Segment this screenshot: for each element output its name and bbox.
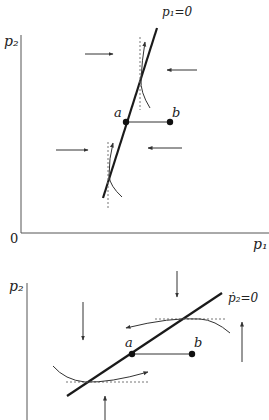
origin-label: 0 [10,231,18,246]
bottom-y-axis-label: p₂ [9,278,24,294]
top-point-a-label: a [114,105,122,120]
top-y-axis-label: p₂ [4,33,19,49]
upper-trajectory [126,319,230,333]
top-diagram: p₂ 0 p₁ p₁=0 a b [4,5,269,252]
bottom-point-b [189,351,195,357]
p1-zero-label: p₁=0 [162,5,193,19]
bottom-diagram: p₂ ṗ₂=0 a b [9,271,259,420]
bottom-point-a [129,351,135,357]
top-x-axis-label: p₁ [253,236,268,252]
phase-diagrams: p₂ 0 p₁ p₁=0 a b p₂ ṗ₂=0 [0,0,269,420]
bottom-point-b-label: b [194,335,202,350]
bottom-point-a-label: a [125,335,133,350]
top-point-b-label: b [172,105,180,120]
top-point-a [123,119,129,125]
p2dot-zero-label: ṗ₂=0 [228,291,259,305]
